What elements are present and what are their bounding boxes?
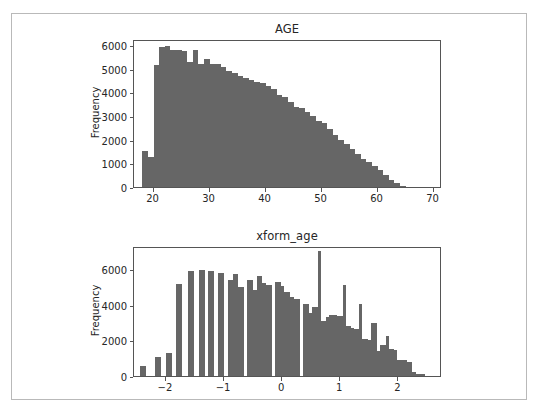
histogram-bar	[238, 287, 244, 376]
histogram-bar	[176, 284, 182, 376]
histogram-bar	[199, 270, 205, 376]
y-tick-mark	[130, 306, 134, 307]
y-tick-mark	[130, 377, 134, 378]
x-tick-mark	[223, 377, 224, 381]
x-tick-label: 1	[336, 382, 342, 393]
histogram-bar	[294, 299, 300, 376]
x-tick-label: −1	[216, 382, 231, 393]
x-tick-mark	[281, 377, 282, 381]
histogram-bar	[140, 366, 146, 376]
matplotlib-figure: AGE0100020003000400050006000203040506070…	[0, 0, 537, 414]
histogram-bar	[188, 271, 194, 376]
histogram-bar	[266, 285, 272, 376]
histogram-bar	[208, 271, 214, 376]
y-axis-label: Frequency	[90, 271, 101, 351]
x-tick-mark	[339, 377, 340, 381]
x-tick-label: 0	[278, 382, 284, 393]
figure-root: AGE0100020003000400050006000203040506070…	[0, 0, 537, 414]
x-tick-mark	[165, 377, 166, 381]
histogram-bars	[134, 248, 440, 376]
histogram-bar	[155, 357, 161, 376]
x-tick-label: −2	[158, 382, 173, 393]
histogram-bar	[166, 353, 172, 376]
histogram-bar	[416, 374, 425, 376]
histogram-bar	[218, 273, 224, 376]
chart-panel-xform-age: xform_age0200040006000−2−1012Frequency	[0, 0, 537, 414]
y-tick-mark	[130, 341, 134, 342]
plot-area	[133, 247, 441, 377]
y-tick-label: 0	[87, 372, 127, 383]
chart-title: xform_age	[133, 229, 441, 243]
y-tick-mark	[130, 270, 134, 271]
x-tick-label: 2	[394, 382, 400, 393]
x-tick-mark	[397, 377, 398, 381]
